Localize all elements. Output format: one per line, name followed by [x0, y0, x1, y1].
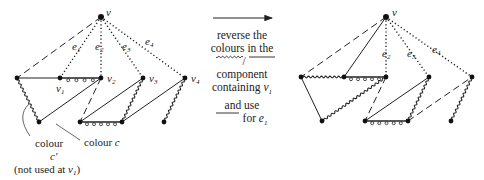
transition-caption: reverse the colours in the / component c…: [203, 29, 281, 131]
caption-not-used: (not used at v1): [14, 163, 80, 177]
label-e4: e4: [145, 35, 154, 49]
left-edge-B-v2: [39, 78, 101, 122]
right-vertex-B: [320, 119, 325, 124]
label-e2-right: e2: [382, 47, 391, 61]
label-e1: e1: [72, 40, 80, 54]
caption-line-3: /: [203, 55, 281, 68]
label-v2: v2: [107, 72, 116, 86]
right-edge-E-v4: [451, 77, 472, 121]
left-bead: [114, 123, 117, 126]
left-edge-A-B: [17, 78, 40, 122]
right-vertex-v1: [342, 75, 347, 80]
leader-colour-cprime: [23, 104, 30, 136]
label-v4: v4: [191, 72, 200, 86]
left-bead: [91, 79, 94, 82]
left-edge-D-v3: [122, 78, 143, 122]
caption-line-7: for e1: [203, 112, 281, 130]
right-vertex-A: [299, 75, 304, 80]
left-bead: [75, 79, 78, 82]
right-vertex-C: [363, 119, 368, 124]
left-vertex-v4: [183, 76, 188, 81]
caption-colour: colour: [35, 137, 63, 149]
right-bead: [350, 78, 353, 81]
left-vertex-E: [162, 120, 167, 125]
right-bead: [399, 122, 402, 125]
label-e3-right: e3: [407, 47, 416, 61]
right-bead: [371, 78, 374, 81]
left-edge-v-v4: [101, 17, 185, 78]
slash: /: [242, 55, 245, 67]
left-edge-v-A: [17, 17, 101, 78]
right-edge-v-v1: [344, 17, 386, 77]
left-bead: [67, 79, 70, 82]
right-vertex-v4: [470, 75, 475, 80]
caption-colour-cprime: colour c′ (not used at v1): [14, 137, 80, 177]
label-v1: v1: [56, 82, 64, 96]
caption-line-2: colours in the: [203, 42, 281, 55]
label-v3: v3: [149, 72, 158, 86]
left-bead: [86, 123, 89, 126]
left-edge-E-v4: [164, 78, 185, 122]
right-edge-B-v2: [322, 77, 386, 121]
caption-line-4: component: [203, 68, 281, 81]
label-e3: e3: [122, 40, 131, 54]
for-text: for: [243, 112, 259, 124]
caption-line-1: reverse the: [203, 29, 281, 42]
right-bead: [371, 122, 374, 125]
left-vertex-B: [37, 120, 42, 125]
right-edge-D-v4: [408, 77, 472, 121]
right-bead: [364, 78, 367, 81]
left-vertex-C: [78, 120, 83, 125]
left-vertex-v1: [58, 76, 63, 81]
e-subscript: 1: [264, 120, 268, 128]
label-e4-right: e4: [432, 43, 441, 57]
right-vertex-v2: [384, 75, 389, 80]
left-graph: [15, 14, 188, 126]
left-vertex-v: [98, 14, 104, 20]
label-v: v: [106, 6, 111, 18]
left-vertex-v2: [99, 76, 104, 81]
label-v-right: v: [392, 6, 397, 18]
containing-text: containing: [212, 81, 263, 93]
right-edge-A-v1: [301, 76, 344, 78]
right-vertex-v3: [427, 75, 432, 80]
caption-colour-c: colour c: [84, 136, 120, 148]
right-vertex-v: [383, 14, 389, 20]
left-vertex-v3: [141, 76, 146, 81]
right-edge-v-v4: [386, 17, 472, 77]
left-bead: [100, 123, 103, 126]
left-bead: [107, 123, 110, 126]
right-vertex-E: [449, 119, 454, 124]
left-bead: [83, 79, 86, 82]
left-edge-v2-C: [80, 78, 101, 122]
v-subscript: 1: [269, 88, 273, 96]
right-edge-v-A: [301, 17, 386, 77]
right-labels: v e2 e3 e4: [382, 6, 441, 61]
right-bead: [378, 122, 381, 125]
right-vertex-D: [406, 119, 411, 124]
right-bead: [385, 122, 388, 125]
left-vertex-A: [15, 76, 20, 81]
caption-line-5: containing v1: [203, 81, 281, 99]
right-edge-D-v3: [408, 77, 429, 121]
left-vertex-D: [120, 120, 125, 125]
right-graph: [299, 14, 475, 125]
label-e2: e2: [95, 40, 104, 54]
caption-cprime: c′: [50, 150, 58, 162]
right-bead: [392, 122, 395, 125]
right-edge-A-B: [301, 77, 322, 121]
caption-line-6: and use: [203, 99, 281, 112]
left-bead: [93, 123, 96, 126]
right-bead: [357, 78, 360, 81]
